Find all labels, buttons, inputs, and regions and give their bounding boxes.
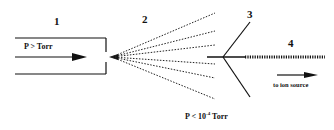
vacuum-pressure-suffix: Torr [210,112,228,121]
region-label-4: 4 [288,37,294,49]
supersonic-beam-diagram: 1 2 3 4 P > Torr to ion source P < 10-4 … [0,0,334,130]
inlet-arrow-icon [15,53,87,61]
expansion-fan [112,13,215,99]
exit-arrow-icon [277,72,318,78]
exit-label: to ion source [273,81,308,88]
vacuum-pressure-prefix: P < 10 [185,112,206,121]
region-label-2: 2 [142,13,148,25]
diagram-graphics [0,0,334,130]
inlet-pressure-label: P > Torr [24,42,53,51]
skimmer [223,22,250,97]
vacuum-pressure-label: P < 10-4 Torr [185,111,228,121]
region-label-3: 3 [247,8,253,20]
region-label-1: 1 [54,15,60,27]
